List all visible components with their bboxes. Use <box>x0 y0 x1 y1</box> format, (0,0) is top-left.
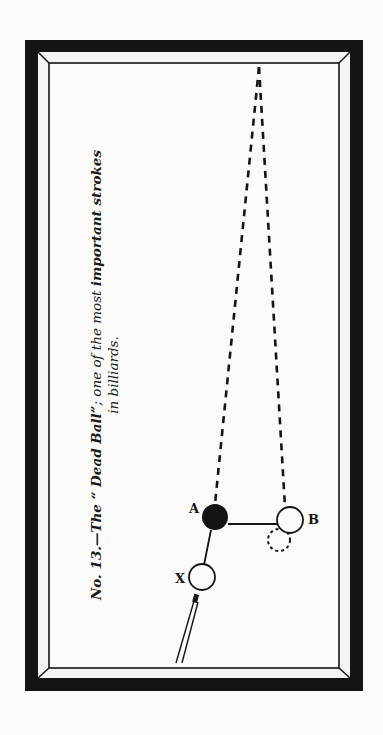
label-b: B <box>308 512 319 527</box>
billiard-table-diagram: A B X <box>0 0 383 735</box>
ball-a-filled <box>202 504 228 530</box>
figure-number: No. 13. <box>88 546 104 600</box>
caption-line-1: No. 13.—The “ Dead Ball”; one of the mos… <box>88 150 105 600</box>
ball-x-cue-ball <box>189 564 215 590</box>
figure: A B X No. 13.—The “ Dead Ball”; one of t… <box>0 0 383 735</box>
figure-caption: No. 13.—The “ Dead Ball”; one of the mos… <box>88 150 122 600</box>
caption-quote: “ Dead Ball” <box>88 406 104 500</box>
ball-b <box>277 507 303 533</box>
label-a: A <box>188 501 200 516</box>
caption-rest: ; one of the most <box>88 286 104 405</box>
caption-emphasis: important strokes <box>88 150 104 286</box>
caption-dash: —The <box>88 499 104 546</box>
label-x: X <box>175 571 186 586</box>
caption-line-2: in billiards. <box>105 150 122 600</box>
